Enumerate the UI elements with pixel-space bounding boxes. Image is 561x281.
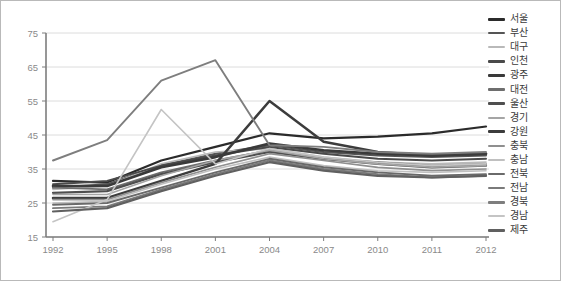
series-line [53, 60, 486, 160]
legend-item[interactable]: 제주 [488, 223, 554, 237]
legend-swatch-icon [488, 173, 505, 176]
legend-item[interactable]: 서울 [488, 12, 554, 26]
legend-swatch-icon [488, 130, 505, 133]
legend-item[interactable]: 부산 [488, 26, 554, 40]
y-axis-tick-label: 65 [27, 62, 38, 73]
legend-item-label: 대구 [510, 40, 528, 54]
legend-swatch-icon [488, 117, 505, 119]
x-axis-tick-label: 2011 [422, 244, 442, 255]
legend-swatch-icon [488, 60, 505, 63]
legend-swatch-icon [488, 159, 505, 161]
legend-item-label: 제주 [510, 223, 528, 237]
legend-item-label: 울산 [510, 97, 528, 111]
legend-item-label: 경북 [510, 195, 528, 209]
chart-panel: 15253545556575 1992199519982001200420072… [0, 0, 561, 281]
legend-item[interactable]: 경남 [488, 209, 554, 223]
legend-swatch-icon [488, 229, 505, 232]
series-group [53, 60, 486, 222]
legend-swatch-icon [488, 187, 505, 190]
x-axis-tick-label: 2001 [205, 244, 226, 255]
legend-item[interactable]: 대구 [488, 40, 554, 54]
x-axis-tick-label: 2007 [313, 244, 334, 255]
x-axis-tick-label: 1992 [42, 244, 63, 255]
legend-item[interactable]: 대전 [488, 82, 554, 96]
legend-swatch-icon [488, 32, 505, 35]
legend-item[interactable]: 충남 [488, 153, 554, 167]
legend-item[interactable]: 충북 [488, 139, 554, 153]
y-axis-labels: 15253545556575 [27, 28, 38, 243]
legend-item[interactable]: 전북 [488, 167, 554, 181]
x-axis-tick-label: 1995 [97, 244, 118, 255]
y-axis-tick-label: 35 [27, 164, 38, 175]
legend-item-label: 경기 [510, 111, 528, 125]
chart-legend: 서울부산대구인천광주대전울산경기강원충북충남전북전남경북경남제주 [488, 12, 554, 238]
legend-item-label: 전북 [510, 167, 528, 181]
x-axis-tick-label: 2012 [475, 244, 496, 255]
legend-item[interactable]: 전남 [488, 181, 554, 195]
legend-item-label: 광주 [510, 68, 528, 82]
y-axis-tick-label: 25 [27, 198, 38, 209]
legend-swatch-icon [488, 201, 505, 204]
legend-item[interactable]: 울산 [488, 97, 554, 111]
legend-item-label: 강원 [510, 125, 528, 139]
x-axis-tick-label: 2004 [259, 244, 280, 255]
legend-item-label: 충남 [510, 153, 528, 167]
y-axis-tick-label: 45 [27, 130, 38, 141]
legend-item-label: 부산 [510, 26, 528, 40]
legend-swatch-icon [488, 102, 505, 105]
y-axis-tick-label: 15 [27, 232, 38, 243]
legend-swatch-icon [488, 74, 505, 77]
legend-swatch-icon [488, 88, 505, 90]
legend-item-label: 인천 [510, 54, 528, 68]
legend-item[interactable]: 인천 [488, 54, 554, 68]
x-axis-labels: 199219951998200120042007201020112012 [42, 244, 496, 255]
y-axis-tick-label: 75 [27, 28, 38, 39]
legend-item-label: 대전 [510, 83, 528, 97]
legend-item[interactable]: 강원 [488, 125, 554, 139]
x-axis-tick-label: 2010 [367, 244, 388, 255]
legend-item-label: 전남 [510, 181, 528, 195]
legend-item-label: 경남 [510, 209, 528, 223]
legend-swatch-icon [488, 46, 505, 48]
legend-item[interactable]: 경북 [488, 195, 554, 209]
legend-swatch-icon [488, 18, 505, 21]
line-chart: 15253545556575 1992199519982001200420072… [1, 1, 561, 281]
legend-item[interactable]: 경기 [488, 111, 554, 125]
legend-swatch-icon [488, 145, 505, 147]
y-axis-tick-label: 55 [27, 96, 38, 107]
x-axis-tick-label: 1998 [151, 244, 172, 255]
legend-item-label: 서울 [510, 12, 528, 26]
legend-item[interactable]: 광주 [488, 68, 554, 82]
legend-swatch-icon [488, 215, 505, 217]
legend-item-label: 충북 [510, 139, 528, 153]
